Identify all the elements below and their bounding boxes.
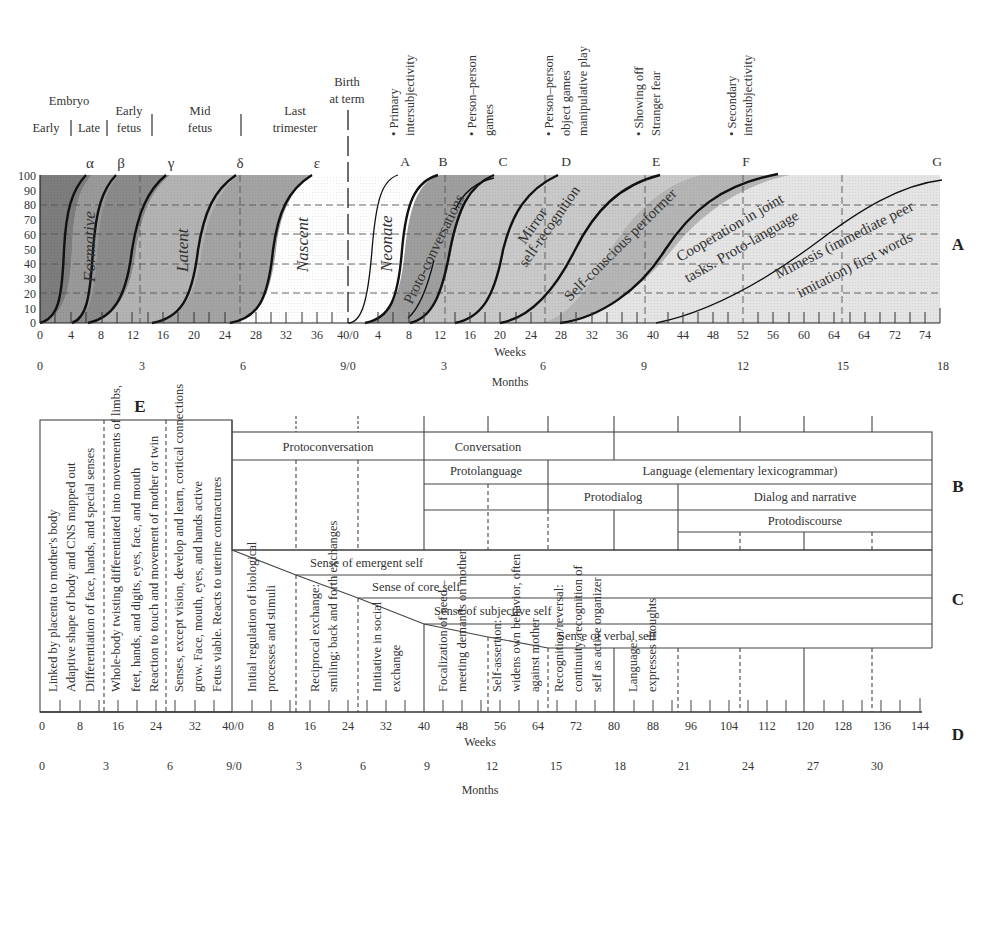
svg-text:Linked by placenta to mother's: Linked by placenta to mother's body [46, 509, 60, 692]
b-dialog-narrative: Dialog and narrative [754, 490, 857, 504]
svg-text:0: 0 [39, 759, 45, 773]
svg-text:• Person–person: • Person–person [465, 54, 479, 136]
svg-text:104: 104 [720, 719, 738, 733]
panel-e-texts: Linked by placenta to mother's body Adap… [46, 384, 224, 692]
svg-text:E: E [652, 154, 660, 169]
svg-text:D: D [561, 154, 571, 169]
svg-text:smiling; back and forth excha: smiling; back and forth exchanges [326, 520, 340, 692]
svg-text:Initiative in social: Initiative in social [370, 601, 384, 692]
svg-text:continuity, recognition of: continuity, recognition of [571, 565, 585, 692]
svg-text:feet, hands, and digits, eyes,: feet, hands, and digits, eyes, face, and… [129, 467, 143, 692]
svg-text:Mid: Mid [190, 104, 212, 118]
svg-text:48: 48 [707, 328, 719, 342]
svg-text:Differentiation of face, hands: Differentiation of face, hands, and spec… [83, 448, 97, 692]
region-nascent: Nascent [293, 216, 312, 273]
svg-text:100: 100 [18, 169, 36, 183]
svg-text:16: 16 [112, 719, 124, 733]
svg-text:30: 30 [24, 272, 36, 286]
svg-text:B: B [438, 154, 447, 169]
svg-text:manipulative play: manipulative play [576, 45, 590, 136]
svg-text:72: 72 [889, 328, 901, 342]
svg-text:40: 40 [418, 719, 430, 733]
svg-text:60: 60 [24, 228, 36, 242]
svg-text:at term: at term [329, 92, 364, 106]
svg-text:games: games [482, 104, 496, 136]
svg-text:fetus: fetus [188, 121, 212, 135]
svg-text:12: 12 [127, 328, 139, 342]
svg-text:80: 80 [24, 198, 36, 212]
developmental-diagram: Formative Latent Nascent Neonate Proto-c… [0, 0, 981, 937]
b-language: Language (elementary lexicogrammar) [642, 464, 837, 478]
svg-text:12: 12 [486, 759, 498, 773]
svg-text:15: 15 [837, 359, 849, 373]
svg-text:• Showing off: • Showing off [632, 66, 646, 136]
panel-label-b: B [952, 477, 963, 496]
svg-text:15: 15 [550, 759, 562, 773]
svg-text:12: 12 [434, 328, 446, 342]
svg-text:0: 0 [39, 719, 45, 733]
svg-text:intersubjectivity: intersubjectivity [741, 54, 755, 136]
svg-text:48: 48 [456, 719, 468, 733]
svg-text:4: 4 [375, 328, 381, 342]
svg-text:3: 3 [103, 759, 109, 773]
b-conversation: Conversation [455, 440, 522, 454]
svg-text:δ: δ [236, 155, 243, 171]
svg-text:0: 0 [37, 359, 43, 373]
svg-text:20: 20 [24, 287, 36, 301]
svg-text:G: G [932, 154, 942, 169]
svg-text:Self-assertion:: Self-assertion: [490, 620, 504, 692]
svg-text:8: 8 [406, 328, 412, 342]
svg-text:6: 6 [240, 359, 246, 373]
svg-text:ε: ε [314, 155, 320, 171]
svg-text:processes and stimuli: processes and stimuli [264, 585, 278, 692]
svg-text:Whole-body twisting differenti: Whole-body twisting differentiated into … [109, 385, 123, 692]
svg-text:40/0: 40/0 [337, 328, 358, 342]
svg-text:grow. Face, mouth, eyes, and h: grow. Face, mouth, eyes, and hands activ… [191, 481, 205, 692]
svg-text:trimester: trimester [273, 121, 318, 135]
svg-text:A: A [400, 154, 410, 169]
svg-text:β: β [117, 155, 125, 171]
panel-d-month-labels: 0 3 6 9/0 3 6 9 12 15 18 21 24 27 30 [39, 759, 883, 773]
svg-text:32: 32 [586, 328, 598, 342]
svg-text:• Secondary: • Secondary [725, 75, 739, 136]
svg-text:36: 36 [311, 328, 323, 342]
region-neonate: Neonate [377, 215, 396, 273]
svg-text:• Primary: • Primary [387, 87, 401, 136]
svg-text:6: 6 [540, 359, 546, 373]
svg-text:32: 32 [380, 719, 392, 733]
svg-text:72: 72 [570, 719, 582, 733]
svg-text:24: 24 [742, 759, 754, 773]
svg-text:20: 20 [188, 328, 200, 342]
svg-text:0: 0 [37, 328, 43, 342]
svg-text:36: 36 [616, 328, 628, 342]
svg-text:56: 56 [494, 719, 506, 733]
svg-text:24: 24 [525, 328, 537, 342]
svg-text:widens own behavior, often: widens own behavior, often [509, 553, 523, 692]
svg-text:74: 74 [919, 328, 931, 342]
svg-text:• Person–person: • Person–person [542, 54, 556, 136]
lower-panels: E [39, 384, 964, 797]
svg-text:Initial regulation of biologic: Initial regulation of biological [245, 541, 259, 692]
svg-text:Reaction to touch and movement: Reaction to touch and movement of mother… [147, 435, 161, 692]
panel-d-weeks-title: Weeks [464, 735, 496, 749]
svg-text:120: 120 [796, 719, 814, 733]
panel-b-top-ticks [232, 416, 872, 432]
svg-text:Fetus viable. Reacts to uterin: Fetus viable. Reacts to uterine contract… [210, 477, 224, 692]
svg-text:exchange: exchange [389, 644, 403, 692]
svg-text:27: 27 [807, 759, 819, 773]
svg-text:10: 10 [24, 302, 36, 316]
svg-text:40: 40 [24, 257, 36, 271]
panel-label-a: A [952, 235, 965, 254]
svg-text:Early: Early [115, 104, 143, 118]
x-axis-weeks-title: Weeks [494, 345, 526, 359]
svg-text:object games: object games [559, 70, 573, 136]
panel-label-e: E [134, 397, 145, 416]
svg-text:128: 128 [834, 719, 852, 733]
svg-text:6: 6 [167, 759, 173, 773]
svg-text:3: 3 [441, 359, 447, 373]
svg-text:6: 6 [360, 759, 366, 773]
svg-text:Last: Last [284, 104, 306, 118]
svg-text:64: 64 [828, 328, 840, 342]
svg-text:144: 144 [911, 719, 929, 733]
svg-text:56: 56 [767, 328, 779, 342]
